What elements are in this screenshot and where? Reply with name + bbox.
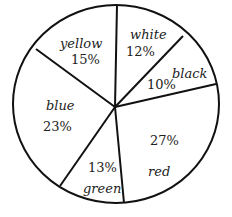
slice-yellow-value: 15%	[71, 52, 100, 67]
slice-black-label: black	[172, 66, 208, 81]
slice-black-value: 10%	[147, 77, 176, 92]
slice-blue-value: 23%	[43, 119, 72, 134]
slice-red-value: 27%	[150, 133, 179, 148]
slice-white-value: 12%	[126, 44, 155, 59]
slice-yellow-label: yellow	[59, 36, 102, 51]
slice-blue-label: blue	[46, 98, 75, 113]
pie-chart: white 12% black 10% 27% red 13% green bl…	[0, 0, 232, 217]
slice-red-label: red	[148, 164, 170, 179]
slice-white-label: white	[130, 27, 167, 42]
slice-green-value: 13%	[88, 160, 117, 175]
slice-green-label: green	[83, 181, 121, 196]
